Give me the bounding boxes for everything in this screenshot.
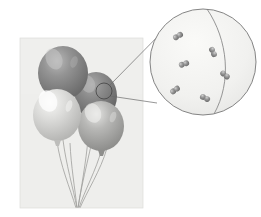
balloon-body bbox=[78, 101, 124, 151]
magnified-gas-circle bbox=[150, 9, 256, 115]
figure-root bbox=[0, 0, 261, 217]
balloon-photograph bbox=[20, 38, 143, 208]
figure-canvas bbox=[0, 0, 261, 217]
